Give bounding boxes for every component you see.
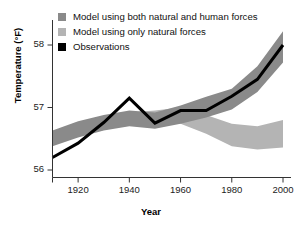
x-tick-label-1940: 1940 — [109, 184, 149, 195]
climate-temperature-chart: Model using both natural and human force… — [0, 0, 302, 231]
y-tick-label-57: 57 — [22, 101, 44, 112]
legend-item-observations: Observations — [58, 41, 298, 52]
y-tick-label-58: 58 — [22, 38, 44, 49]
legend-swatch-observations — [58, 43, 66, 51]
legend-label-observations: Observations — [73, 41, 130, 52]
legend-label-natural-only: Model using only natural forces — [73, 26, 206, 37]
x-axis-title: Year — [0, 206, 302, 217]
legend-swatch-both-forces — [58, 13, 66, 21]
x-tick-label-1960: 1960 — [161, 184, 201, 195]
chart-legend: Model using both natural and human force… — [58, 11, 298, 56]
y-axis-title: Temperature (°F) — [12, 16, 23, 116]
x-tick-label-2000: 2000 — [263, 184, 302, 195]
legend-swatch-natural-only — [58, 28, 66, 36]
legend-label-both-forces: Model using both natural and human force… — [73, 11, 258, 22]
legend-item-both-forces: Model using both natural and human force… — [58, 11, 298, 22]
x-tick-label-1920: 1920 — [58, 184, 98, 195]
x-tick-label-1980: 1980 — [212, 184, 252, 195]
legend-item-natural-only: Model using only natural forces — [58, 26, 298, 37]
y-tick-label-56: 56 — [22, 163, 44, 174]
